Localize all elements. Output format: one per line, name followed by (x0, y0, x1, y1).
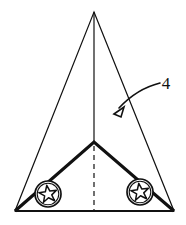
left-wheel-outer-circle (35, 181, 61, 207)
line-drawing-svg: 4 (0, 0, 186, 225)
figure-canvas: 4 (0, 0, 186, 225)
callout-4-label: 4 (162, 74, 171, 93)
right-wheel (127, 179, 153, 205)
right-wheel-outer-circle (127, 179, 153, 205)
left-wheel (35, 181, 61, 207)
figure-background (0, 0, 186, 225)
